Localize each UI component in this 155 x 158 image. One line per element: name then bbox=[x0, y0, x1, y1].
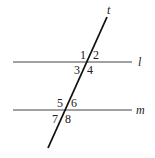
label-t: t bbox=[107, 3, 111, 17]
angle-4: 4 bbox=[87, 63, 93, 77]
angle-8: 8 bbox=[65, 112, 71, 126]
angle-2: 2 bbox=[93, 48, 99, 62]
angle-1: 1 bbox=[80, 48, 86, 62]
label-l: l bbox=[138, 55, 142, 69]
angle-5: 5 bbox=[57, 96, 63, 110]
transversal-t bbox=[48, 17, 107, 148]
label-m: m bbox=[136, 103, 145, 117]
parallel-lines-diagram: t l m 1 2 3 4 5 6 7 8 bbox=[0, 0, 155, 158]
angle-7: 7 bbox=[52, 112, 58, 126]
angle-6: 6 bbox=[71, 96, 77, 110]
angle-3: 3 bbox=[74, 63, 80, 77]
diagram-canvas: t l m 1 2 3 4 5 6 7 8 bbox=[0, 0, 155, 158]
